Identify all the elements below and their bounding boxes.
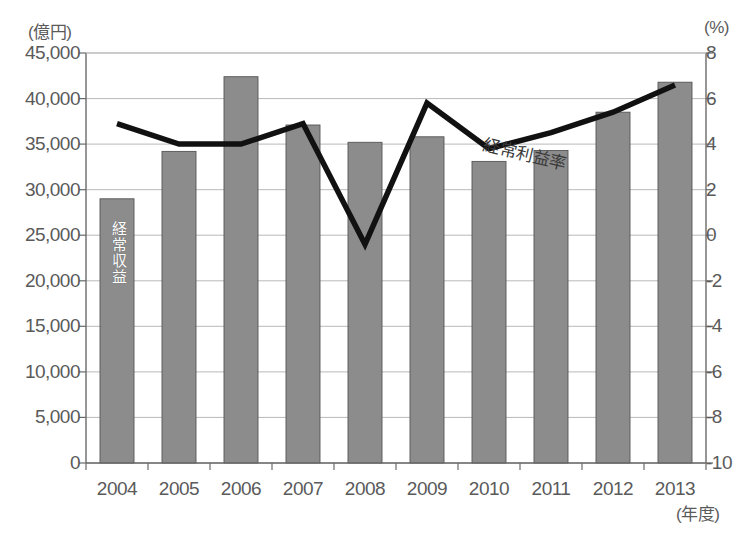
right-axis-tick-labels: -10-8-6-4-202468 bbox=[706, 0, 755, 535]
left-axis-tick: 10,000 bbox=[8, 361, 80, 383]
x-axis-tick: 2007 bbox=[283, 478, 323, 500]
left-axis-tick: 5,000 bbox=[8, 406, 80, 428]
bar-series bbox=[100, 77, 692, 463]
line-series bbox=[117, 85, 675, 244]
right-axis-tick: 8 bbox=[706, 42, 752, 64]
right-axis-tick: -8 bbox=[706, 406, 752, 428]
bar-series-inline-label: 経常収益 bbox=[108, 221, 129, 285]
x-axis-tick: 2012 bbox=[593, 478, 633, 500]
x-axis-tick: 2004 bbox=[97, 478, 137, 500]
left-axis-tick: 25,000 bbox=[8, 224, 80, 246]
left-axis-tick: 20,000 bbox=[8, 270, 80, 292]
right-axis-tick: 6 bbox=[706, 88, 752, 110]
x-axis-tick: 2009 bbox=[407, 478, 447, 500]
x-axis-tick: 2005 bbox=[159, 478, 199, 500]
x-axis-tick: 2011 bbox=[532, 478, 571, 500]
left-axis-tick-labels: 05,00010,00015,00020,00025,00030,00035,0… bbox=[0, 0, 80, 535]
x-axis-tick: 2010 bbox=[469, 478, 509, 500]
right-axis-tick: 0 bbox=[706, 224, 752, 246]
left-axis-tick: 40,000 bbox=[8, 88, 80, 110]
left-axis-tick: 35,000 bbox=[8, 133, 80, 155]
left-axis-tick: 30,000 bbox=[8, 179, 80, 201]
chart-container: (億円) (%) (年度) 05,00010,00015,00020,00025… bbox=[0, 0, 755, 535]
x-axis-tick: 2008 bbox=[345, 478, 385, 500]
left-axis-tick: 45,000 bbox=[8, 42, 80, 64]
right-axis-tick: -4 bbox=[706, 315, 752, 337]
left-axis-tick: 15,000 bbox=[8, 315, 80, 337]
right-axis-tick: 2 bbox=[706, 179, 752, 201]
x-axis-tick: 2013 bbox=[655, 478, 695, 500]
right-axis-tick: -2 bbox=[706, 270, 752, 292]
right-axis-tick: -6 bbox=[706, 361, 752, 383]
x-axis-tick: 2006 bbox=[221, 478, 261, 500]
x-axis-tick-labels: 2004200520062007200820092010201120122013 bbox=[0, 470, 755, 510]
right-axis-tick: 4 bbox=[706, 133, 752, 155]
